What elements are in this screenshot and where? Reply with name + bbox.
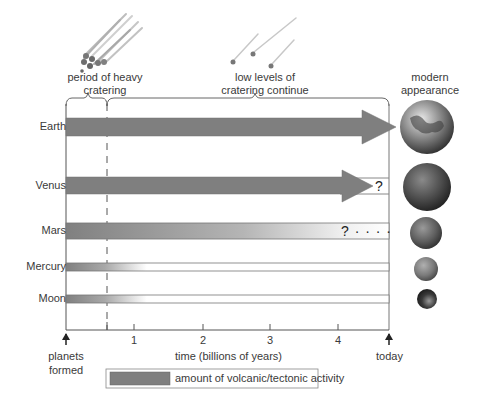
meteor-cluster-icon [80,14,142,73]
low-cratering-line2: cratering continue [200,84,330,97]
tick-label-2: 2 [200,334,206,346]
row-label-moon: Moon [38,292,66,304]
mercury-globe-icon [414,257,438,281]
planets-formed-arrow-icon [62,333,70,345]
axis-title: time (billions of years) [175,350,282,362]
heavy-cratering-line1: period of heavy [40,71,170,84]
heavy-cratering-line2: cratering [40,84,170,97]
heavy-cratering-label: period of heavy cratering [40,71,170,97]
legend-swatch [110,372,170,385]
venus-activity-arrow [66,170,373,202]
planets-formed-label: planets formed [38,349,94,377]
modern-line2: appearance [392,84,468,97]
modern-line1: modern [392,71,468,84]
tick-label-1: 1 [131,334,137,346]
planets-formed-line1: planets [38,349,94,363]
row-label-earth: Earth [40,120,66,132]
modern-appearance-label: modern appearance [392,71,468,97]
today-label: today [376,350,403,362]
venus-globe-icon [403,163,451,211]
tick-label-4: 4 [335,334,341,346]
row-label-mercury: Mercury [26,260,66,272]
low-cratering-label: low levels of cratering continue [200,71,330,97]
mercury-activity-bar [66,263,389,271]
low-cratering-line1: low levels of [200,71,330,84]
venus-uncertain-mark: ? [375,178,383,194]
moon-activity-bar [66,295,389,303]
earth-activity-arrow [66,110,396,144]
row-label-mars: Mars [42,224,66,236]
planets-formed-line2: formed [38,363,94,377]
mars-uncertain-mark: ? · · · · [341,223,392,239]
mars-globe-icon [410,217,442,249]
row-label-venus: Venus [35,179,66,191]
tick-label-3: 3 [267,334,273,346]
moon-globe-icon [417,289,437,309]
legend-label: amount of volcanic/tectonic activity [175,372,344,384]
today-arrow-icon [385,333,393,345]
meteor-few-icon [231,18,297,69]
